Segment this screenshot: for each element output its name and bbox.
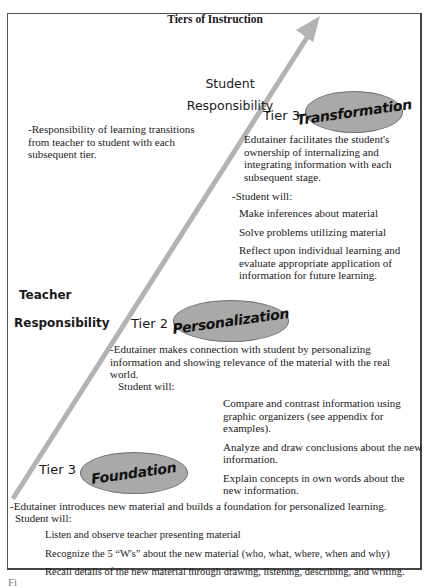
tier2-student-will: Student will: [118, 380, 175, 393]
tier1-items: Listen and observe teacher presenting ma… [45, 529, 425, 585]
tier2-items: Compare and contrast information using g… [223, 397, 423, 503]
list-item: Solve problems utilizing material [239, 226, 419, 239]
tier1-student-will: Student will: [15, 512, 72, 525]
tier1-ellipse: Foundation [80, 452, 188, 494]
tier2-name: Personalization [172, 305, 291, 337]
tier3-ellipse: Transformation [305, 91, 403, 133]
list-item: Make inferences about material [239, 207, 419, 220]
figure-caption-fragment: Fi [8, 576, 17, 588]
page-title: Tiers of Instruction [0, 13, 430, 25]
tier2-ellipse: Personalization [173, 300, 289, 342]
responsibility-label: Responsibility [14, 316, 110, 330]
list-item: Recall details of the new material throu… [45, 566, 425, 579]
list-item: Recognize the 5 “W's” about the new mate… [45, 548, 425, 561]
tier3-name: Transformation [295, 96, 412, 128]
student-label-line1: Student [170, 73, 290, 95]
list-item: Listen and observe teacher presenting ma… [45, 529, 425, 542]
tier1-description: -Edutainer introduces new material and b… [10, 500, 420, 513]
tier1-label: Tier 3 [39, 462, 76, 477]
transition-note: -Responsibility of learning transitions … [28, 123, 203, 161]
list-item: Reflect upon individual learning and eva… [239, 244, 419, 282]
list-item: Compare and contrast information using g… [223, 397, 423, 435]
tier2-description: -Edutainer makes connection with student… [110, 343, 415, 381]
tier3-student-will: -Student will: [232, 190, 292, 203]
teacher-label: Teacher [19, 288, 72, 302]
tier3-description: Edutainer facilitates the student's owne… [244, 133, 409, 183]
tier3-items: Make inferences about material Solve pro… [239, 207, 419, 288]
list-item: Explain concepts in own words about the … [223, 472, 423, 497]
list-item: Analyze and draw conclusions about the n… [223, 441, 423, 466]
tier2-label: Tier 2 [131, 316, 168, 331]
tier3-label: Tier 3 [263, 108, 300, 123]
tier1-name: Foundation [91, 459, 178, 487]
